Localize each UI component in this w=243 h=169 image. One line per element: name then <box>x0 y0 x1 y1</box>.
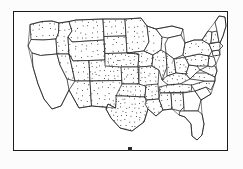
us-dot-distribution-map <box>13 11 228 151</box>
state-ks[interactable] <box>121 67 139 84</box>
state-mt[interactable] <box>68 19 104 42</box>
state-wa[interactable] <box>30 21 59 40</box>
state-al[interactable] <box>171 93 184 111</box>
state-ky[interactable] <box>162 73 190 85</box>
map-svg <box>13 11 228 151</box>
state-tn[interactable] <box>159 84 192 93</box>
figure-container: Dot distribution map of the contiguous U… <box>0 0 243 169</box>
state-nd[interactable] <box>103 19 126 37</box>
state-ar[interactable] <box>145 84 159 100</box>
state-fl[interactable] <box>179 111 204 140</box>
state-az[interactable] <box>69 81 92 108</box>
state-boundaries-layer <box>28 16 226 140</box>
state-sd[interactable] <box>104 36 127 54</box>
state-ne[interactable] <box>105 53 139 67</box>
state-nj[interactable] <box>208 56 216 67</box>
